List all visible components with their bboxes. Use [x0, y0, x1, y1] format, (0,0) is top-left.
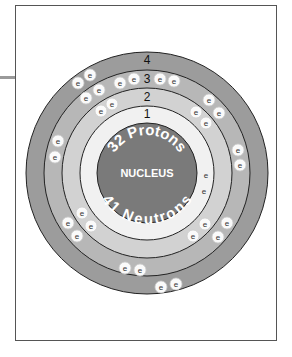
electron: e: [95, 105, 107, 117]
electron: e: [62, 217, 74, 229]
electron: e: [203, 94, 215, 106]
svg-text:e: e: [123, 264, 128, 273]
electron: e: [190, 106, 202, 118]
svg-text:e: e: [75, 232, 80, 241]
svg-text:e: e: [238, 161, 243, 170]
electron: e: [72, 77, 84, 89]
svg-text:e: e: [76, 79, 81, 88]
electron: e: [52, 135, 64, 147]
electron: e: [202, 187, 207, 196]
electron: e: [213, 107, 225, 119]
electron: e: [119, 262, 131, 274]
electron: e: [76, 207, 88, 219]
shell-4-label: 4: [144, 53, 151, 67]
svg-text:e: e: [56, 137, 61, 146]
svg-text:e: e: [203, 220, 208, 229]
svg-text:e: e: [191, 232, 196, 241]
electron: e: [212, 231, 224, 243]
atom-diagram: 4 3 2 1 32 Protons 41 Neutrons NUCLEUS e…: [0, 0, 292, 357]
nucleus-label: NUCLEUS: [120, 167, 173, 179]
svg-text:e: e: [217, 109, 222, 118]
svg-text:e: e: [97, 86, 102, 95]
electron: e: [49, 151, 61, 163]
svg-text:e: e: [89, 222, 94, 231]
electron: e: [168, 75, 180, 87]
svg-text:e: e: [159, 283, 164, 292]
electron: e: [114, 77, 126, 89]
electron: e: [170, 278, 182, 290]
electron: e: [134, 264, 146, 276]
svg-text:e: e: [172, 77, 177, 86]
svg-text:e: e: [207, 96, 212, 105]
svg-text:e: e: [110, 100, 115, 109]
electron: e: [106, 98, 118, 110]
svg-text:e: e: [99, 107, 104, 116]
electron: e: [93, 84, 105, 96]
svg-text:e: e: [66, 219, 71, 228]
electron: e: [204, 171, 209, 180]
svg-text:e: e: [80, 209, 85, 218]
electron: e: [155, 281, 167, 293]
svg-text:e: e: [216, 233, 221, 242]
electron: e: [84, 69, 96, 81]
svg-text:e: e: [138, 266, 143, 275]
svg-text:e: e: [132, 75, 137, 84]
svg-text:e: e: [194, 108, 199, 117]
svg-text:e: e: [118, 79, 123, 88]
electron: e: [71, 230, 83, 242]
svg-text:e: e: [158, 75, 163, 84]
shell-3-label: 3: [144, 72, 151, 86]
svg-text:e: e: [84, 94, 89, 103]
svg-text:e: e: [88, 71, 93, 80]
electron: e: [128, 73, 140, 85]
svg-text:e: e: [225, 219, 230, 228]
electron: e: [154, 73, 166, 85]
electron: e: [221, 217, 233, 229]
electron: e: [200, 117, 212, 129]
electron: e: [80, 92, 92, 104]
shell-1-label: 1: [144, 107, 151, 121]
svg-text:e: e: [204, 171, 209, 180]
electron: e: [234, 159, 246, 171]
electron: e: [199, 218, 211, 230]
svg-text:e: e: [204, 119, 209, 128]
svg-text:e: e: [174, 280, 179, 289]
electron: e: [187, 230, 199, 242]
electron: e: [85, 220, 97, 232]
svg-text:e: e: [53, 153, 58, 162]
shell-2-label: 2: [144, 90, 151, 104]
electron: e: [232, 144, 244, 156]
svg-text:e: e: [202, 187, 207, 196]
svg-text:e: e: [236, 146, 241, 155]
